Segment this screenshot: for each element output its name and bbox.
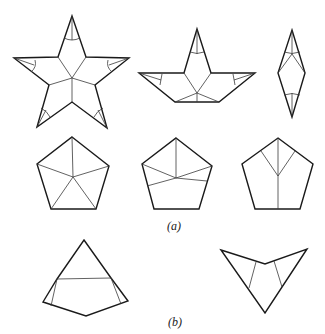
label-b: (b) bbox=[168, 315, 182, 330]
star-partial bbox=[139, 29, 255, 102]
kite-shape bbox=[43, 240, 128, 316]
pentagon-y-crease bbox=[242, 138, 313, 209]
folded-diamond bbox=[278, 30, 305, 117]
pentagon-radial bbox=[37, 137, 109, 209]
pentagon-asymmetric bbox=[142, 138, 212, 209]
star-flat bbox=[14, 16, 129, 128]
origami-diagram bbox=[0, 0, 325, 334]
label-a: (a) bbox=[167, 219, 181, 234]
arrowhead-shape bbox=[221, 249, 307, 313]
